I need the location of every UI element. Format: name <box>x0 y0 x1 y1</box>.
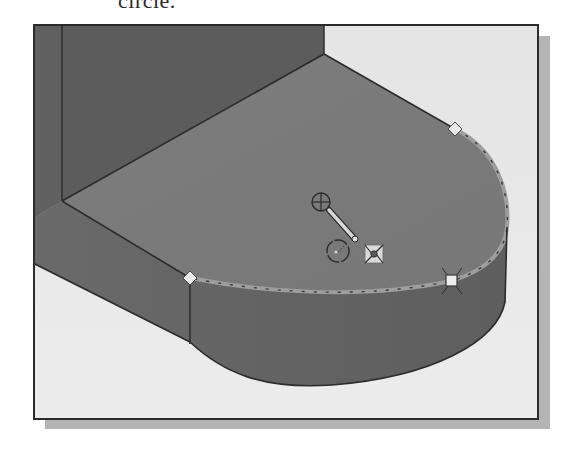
caption-text: circle. <box>118 0 176 12</box>
cad-viewport[interactable] <box>33 24 539 420</box>
back-wall-side-strip <box>35 26 62 217</box>
tangent-inference-icon <box>365 245 383 263</box>
